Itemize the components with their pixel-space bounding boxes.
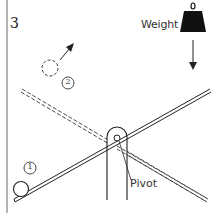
ball-position-1-icon [14,182,29,197]
position-2-label: 2 [62,77,74,86]
weight-icon [180,3,206,32]
fall-arrow-icon [189,40,197,70]
pivot-pin-icon [114,135,120,141]
weight-label: Weight [141,18,178,31]
catapult-diagram: 3 Weight Pivot 1 2 [0,0,214,213]
position-1-label: 1 [24,162,36,171]
diagram-canvas [0,0,214,213]
pivot-label: Pivot [130,177,157,190]
launch-arrow-icon [60,43,74,60]
dashed-lever-front [117,146,208,202]
figure-number: 3 [10,15,19,31]
ball-position-2-icon [42,60,58,76]
